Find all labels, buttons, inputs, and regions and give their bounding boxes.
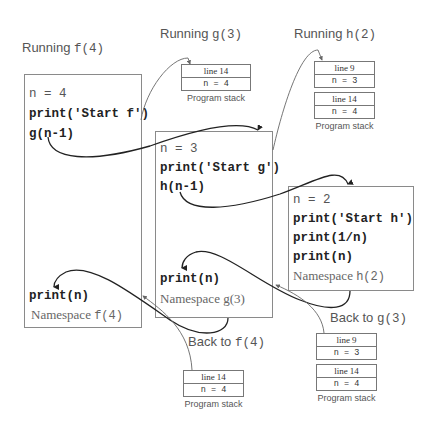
frame-var: n = 4 xyxy=(184,383,243,396)
heading-text: Running xyxy=(294,26,346,41)
frame-line: line 14 xyxy=(184,371,243,383)
heading-running-h: Running h(2) xyxy=(294,26,376,42)
frame-line: line 9 xyxy=(317,334,376,346)
code-line: n = 2 xyxy=(293,190,331,210)
stack-frame: line 14 n = 4 xyxy=(316,364,377,391)
program-stack-running-g: line 14 n = 4 Program stack xyxy=(181,64,251,103)
code-line: print(n) xyxy=(293,247,353,267)
label-call: f(4) xyxy=(94,309,123,323)
stack-frame: line 14 n = 4 xyxy=(314,92,375,119)
stack-frame: line 14 n = 4 xyxy=(181,64,251,91)
namespace-g-label: Namespace g(3) xyxy=(160,291,245,307)
heading-text: Back to xyxy=(188,334,235,349)
code-line: print('Start g') xyxy=(160,158,280,178)
namespace-f-box: n = 4 print('Start f') g(n-1) print(n) N… xyxy=(24,74,142,328)
code-line: print(1/n) xyxy=(293,228,368,248)
frame-line: line 9 xyxy=(315,62,374,74)
heading-call: f(4) xyxy=(74,42,104,56)
stack-frame: line 14 n = 4 xyxy=(183,370,244,397)
heading-text: Running xyxy=(160,26,212,41)
heading-running-g: Running g(3) xyxy=(160,26,242,42)
frame-line: line 14 xyxy=(315,93,374,105)
heading-back-to-f: Back to f(4) xyxy=(188,334,265,350)
label-call: h(2) xyxy=(356,270,385,284)
heading-text: Back to xyxy=(330,310,377,325)
pop-arrow-back-to-g xyxy=(276,285,324,333)
frame-var: n = 3 xyxy=(315,74,374,87)
frame-line: line 14 xyxy=(182,65,250,77)
frame-var: n = 4 xyxy=(315,105,374,118)
frame-line: line 14 xyxy=(317,365,376,377)
program-stack-back-to-g: line 9 n = 3 line 14 n = 4 Program stack xyxy=(316,333,377,403)
namespace-f-label: Namespace f(4) xyxy=(31,307,123,323)
frame-var: n = 3 xyxy=(317,346,376,359)
stack-label: Program stack xyxy=(181,93,251,103)
frame-var: n = 4 xyxy=(317,377,376,390)
code-line: n = 4 xyxy=(29,84,67,104)
heading-call: g(3) xyxy=(212,28,242,42)
frame-var: n = 4 xyxy=(182,77,250,90)
heading-back-to-g: Back to g(3) xyxy=(330,310,407,326)
heading-text: Running xyxy=(22,40,74,55)
stack-frame: line 9 n = 3 xyxy=(316,333,377,360)
label-text: Namespace xyxy=(293,268,356,283)
code-line: print(n) xyxy=(29,286,89,306)
code-line: g(n-1) xyxy=(29,124,74,144)
namespace-g-box: n = 3 print('Start g') h(n-1) print(n) N… xyxy=(155,131,273,318)
code-line: print(n) xyxy=(160,269,220,289)
heading-call: h(2) xyxy=(346,28,376,42)
code-line: h(n-1) xyxy=(160,177,205,197)
heading-call: g(3) xyxy=(377,312,407,326)
program-stack-back-to-f: line 14 n = 4 Program stack xyxy=(183,370,244,409)
code-line: print('Start h') xyxy=(293,209,413,229)
heading-running-f: Running f(4) xyxy=(22,40,104,56)
stack-label: Program stack xyxy=(316,393,377,403)
namespace-h-label: Namespace h(2) xyxy=(293,268,385,284)
heading-call: f(4) xyxy=(235,336,265,350)
label-text: Namespace xyxy=(31,307,94,322)
stack-label: Program stack xyxy=(314,121,375,131)
stack-label: Program stack xyxy=(183,399,244,409)
program-stack-running-h: line 9 n = 3 line 14 n = 4 Program stack xyxy=(314,61,375,131)
stack-frame: line 9 n = 3 xyxy=(314,61,375,88)
namespace-h-box: n = 2 print('Start h') print(1/n) print(… xyxy=(288,186,414,291)
code-line: n = 3 xyxy=(160,139,198,159)
code-line: print('Start f') xyxy=(29,104,149,124)
